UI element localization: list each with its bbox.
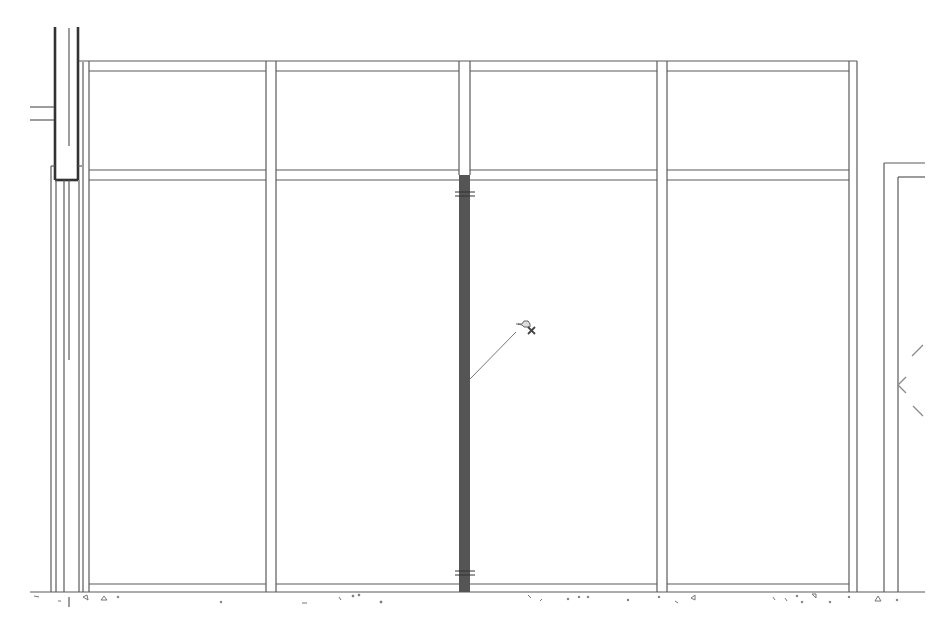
mullion-4[interactable] xyxy=(657,61,667,592)
left-wall-column[interactable] xyxy=(30,27,83,607)
right-door-frame[interactable] xyxy=(884,163,925,592)
mullion-3-upper[interactable] xyxy=(459,61,470,175)
selected-mullion[interactable] xyxy=(455,175,475,592)
ground-hatch xyxy=(34,594,898,603)
horizontal-members[interactable] xyxy=(30,61,925,592)
mullion-2[interactable] xyxy=(266,61,276,592)
pin-leader xyxy=(470,332,516,379)
pushpin-unpin-icon[interactable] xyxy=(516,321,535,334)
curtain-wall-frame xyxy=(30,27,925,607)
mullion-5[interactable] xyxy=(849,61,857,592)
drawing-canvas[interactable] xyxy=(0,0,950,621)
